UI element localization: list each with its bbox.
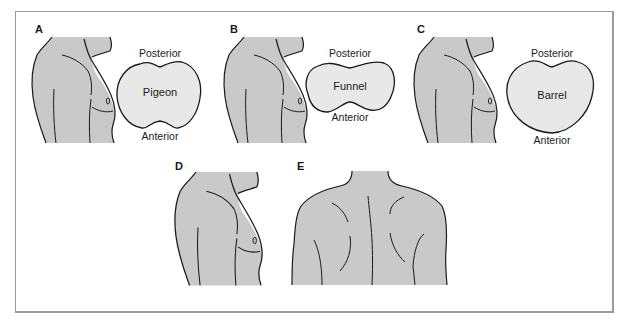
torso-side-view-c <box>414 37 497 143</box>
funnel-shape-name: Funnel <box>310 80 390 92</box>
torso-side-view-d <box>175 172 262 285</box>
barrel-shape-name: Barrel <box>512 89 592 101</box>
panel-label-e: E <box>297 160 304 172</box>
pigeon-shape-name: Pigeon <box>120 86 200 98</box>
pigeon-anterior-label: Anterior <box>120 130 200 142</box>
back-view-e <box>292 171 447 285</box>
panel-label-a: A <box>35 23 43 35</box>
funnel-anterior-label: Anterior <box>310 111 390 123</box>
barrel-anterior-label: Anterior <box>512 134 592 146</box>
pigeon-posterior-label: Posterior <box>120 47 200 59</box>
panel-label-b: B <box>230 23 238 35</box>
barrel-posterior-label: Posterior <box>512 47 592 59</box>
panel-label-d: D <box>175 160 183 172</box>
funnel-posterior-label: Posterior <box>310 47 390 59</box>
torso-side-view-b <box>224 37 307 143</box>
torso-side-view-a <box>32 37 115 143</box>
panel-label-c: C <box>417 23 425 35</box>
